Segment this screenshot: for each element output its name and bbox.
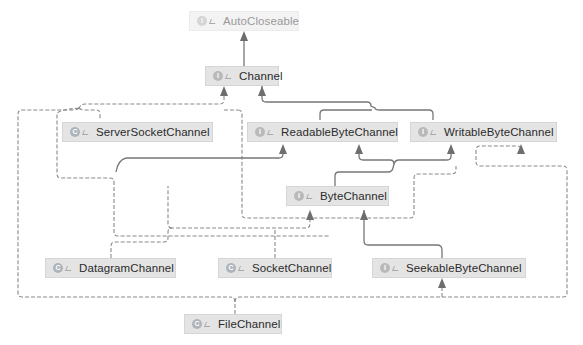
visibility-icon <box>431 129 437 135</box>
edge-dashed-to-bytechannel <box>111 186 310 258</box>
edges-layer <box>0 0 583 345</box>
interface-icon: I <box>255 127 265 137</box>
visibility-icon <box>268 129 274 135</box>
visibility-icon <box>226 73 232 79</box>
node-writablebytechannel[interactable]: I WritableByteChannel <box>410 122 557 142</box>
node-label: Channel <box>239 70 283 82</box>
interface-icon: I <box>197 16 207 26</box>
interface-icon: I <box>294 191 304 201</box>
interface-icon: I <box>380 263 390 273</box>
diagram-canvas: I AutoCloseable I Channel C ServerSocket… <box>0 0 583 345</box>
visibility-icon <box>393 265 399 271</box>
interface-icon: I <box>213 71 223 81</box>
edge-seekable-bytechannel <box>364 210 442 258</box>
node-label: ReadableByteChannel <box>281 126 398 138</box>
visibility-icon <box>66 265 72 271</box>
node-label: SocketChannel <box>252 262 331 274</box>
class-icon: C <box>226 263 236 273</box>
node-bytechannel[interactable]: I ByteChannel <box>286 186 389 206</box>
visibility-icon <box>307 193 313 199</box>
edge-dashed-filechannel <box>230 146 567 314</box>
edge-to-readable <box>116 148 283 172</box>
node-label: ByteChannel <box>320 190 387 202</box>
node-channel[interactable]: I Channel <box>205 66 279 86</box>
node-readablebytechannel[interactable]: I ReadableByteChannel <box>247 122 398 142</box>
node-datagramchannel[interactable]: C DatagramChannel <box>45 258 176 278</box>
edge-readable-writable-channel <box>262 86 433 120</box>
class-icon: C <box>70 127 80 137</box>
class-icon: C <box>192 319 202 329</box>
node-label: FileChannel <box>218 318 280 330</box>
visibility-icon <box>210 18 216 24</box>
node-socketchannel[interactable]: C SocketChannel <box>218 258 332 278</box>
edge-channel-autocloseable <box>240 31 248 66</box>
edge-bytechannel-parents <box>335 148 451 186</box>
node-label: WritableByteChannel <box>444 126 554 138</box>
visibility-icon <box>83 129 89 135</box>
node-seekablebytechannel[interactable]: I SeekableByteChannel <box>372 258 526 278</box>
visibility-icon <box>205 321 211 327</box>
interface-icon: I <box>418 127 428 137</box>
class-icon: C <box>53 263 63 273</box>
node-filechannel[interactable]: C FileChannel <box>184 314 282 334</box>
node-label: AutoCloseable <box>223 15 299 27</box>
visibility-icon <box>239 265 245 271</box>
node-label: DatagramChannel <box>79 262 174 274</box>
node-label: SeekableByteChannel <box>406 262 522 274</box>
node-autocloseable[interactable]: I AutoCloseable <box>189 11 299 31</box>
node-serversocketchannel[interactable]: C ServerSocketChannel <box>62 122 213 142</box>
node-label: ServerSocketChannel <box>96 126 210 138</box>
